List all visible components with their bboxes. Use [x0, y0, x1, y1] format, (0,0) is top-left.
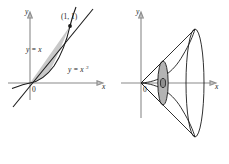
- y-axis-label: y: [135, 7, 140, 16]
- line-label: y = x: [25, 45, 42, 54]
- solid-of-revolution-svg: y x 0: [115, 0, 229, 164]
- x-axis-label: x: [101, 82, 106, 91]
- cubic-label: y = x: [67, 65, 84, 74]
- y-axis-label: y: [24, 7, 29, 16]
- intersection-point-marker: [68, 24, 72, 28]
- washer-inner-ellipse: [160, 78, 165, 87]
- cubic-label-exponent: 3: [86, 65, 89, 70]
- origin-label: 0: [32, 85, 36, 94]
- calculus-figure: y x 0 (1, 1) y = x y = x 3: [0, 0, 229, 164]
- region-plot-panel: y x 0 (1, 1) y = x y = x 3: [0, 0, 115, 164]
- x-axis-label: x: [214, 82, 219, 91]
- intersection-point-label: (1, 1): [61, 12, 78, 21]
- region-plot-svg: y x 0 (1, 1) y = x y = x 3: [0, 0, 115, 164]
- shaded-region: [30, 26, 70, 83]
- line-y-equals-x: [13, 9, 93, 107]
- origin-label: 0: [143, 85, 147, 94]
- solid-of-revolution-panel: y x 0: [115, 0, 229, 164]
